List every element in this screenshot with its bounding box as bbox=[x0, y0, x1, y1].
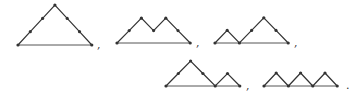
period: . bbox=[346, 80, 350, 91]
lattice-point bbox=[275, 71, 278, 74]
lattice-point bbox=[250, 29, 253, 32]
lattice-point bbox=[176, 29, 179, 32]
lattice-point bbox=[238, 84, 241, 87]
lattice-point bbox=[53, 4, 56, 7]
path-line bbox=[264, 73, 337, 86]
lattice-point bbox=[213, 41, 216, 44]
lattice-point bbox=[16, 43, 19, 46]
comma: , bbox=[196, 37, 200, 48]
lattice-point bbox=[90, 43, 93, 46]
lattice-point bbox=[274, 29, 277, 32]
lattice-point bbox=[214, 84, 217, 87]
lattice-point bbox=[336, 84, 339, 87]
lattice-point bbox=[299, 71, 302, 74]
dyck-paths-diagram bbox=[0, 0, 362, 94]
lattice-point bbox=[189, 59, 192, 62]
comma: , bbox=[246, 80, 250, 91]
lattice-point bbox=[66, 17, 69, 20]
lattice-point bbox=[238, 41, 241, 44]
lattice-point bbox=[262, 16, 265, 19]
comma: , bbox=[294, 37, 298, 48]
lattice-point bbox=[177, 72, 180, 75]
lattice-point bbox=[41, 17, 44, 20]
dyck-path-uuddud bbox=[164, 59, 241, 87]
lattice-point bbox=[201, 72, 204, 75]
path-line bbox=[18, 5, 92, 45]
dyck-path-uduudd bbox=[213, 16, 289, 44]
dyck-path-uududd bbox=[115, 17, 191, 45]
comma: , bbox=[97, 39, 101, 50]
lattice-point bbox=[78, 30, 81, 33]
lattice-point bbox=[311, 84, 314, 87]
lattice-point bbox=[287, 84, 290, 87]
lattice-point bbox=[189, 41, 192, 44]
lattice-point bbox=[323, 71, 326, 74]
lattice-point bbox=[128, 29, 131, 32]
lattice-point bbox=[287, 41, 290, 44]
dyck-path-ududud bbox=[262, 71, 338, 87]
lattice-point bbox=[164, 17, 167, 20]
lattice-point bbox=[226, 72, 229, 75]
lattice-point bbox=[115, 41, 118, 44]
lattice-point bbox=[226, 29, 229, 32]
lattice-point bbox=[164, 84, 167, 87]
lattice-point bbox=[262, 84, 265, 87]
lattice-point bbox=[29, 30, 32, 33]
dyck-path-uuuddd bbox=[16, 4, 93, 47]
lattice-point bbox=[152, 29, 155, 32]
lattice-point bbox=[140, 17, 143, 20]
